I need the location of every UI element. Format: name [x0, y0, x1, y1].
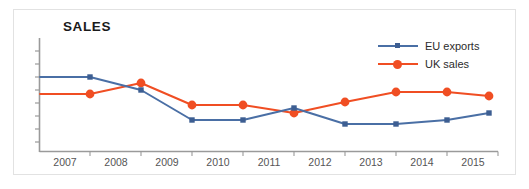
x-tick-label-2007: 2007	[53, 156, 76, 168]
x-tick-label-2010: 2010	[206, 156, 229, 168]
legend-label-eu-exports: EU exports	[425, 40, 479, 52]
series-markers-eu-exports	[87, 74, 491, 126]
legend-label-uk-sales: UK sales	[425, 58, 469, 70]
x-tick-label-2011: 2011	[258, 156, 281, 168]
x-tick-label-2015: 2015	[461, 156, 484, 168]
x-tick-label-2014: 2014	[410, 156, 433, 168]
legend-swatch-uk-sales	[378, 58, 418, 70]
legend-item-eu-exports: EU exports	[378, 39, 479, 53]
x-tick-label-2013: 2013	[359, 156, 382, 168]
legend-swatch-eu-exports	[378, 40, 418, 52]
x-tick-label-2009: 2009	[155, 156, 178, 168]
series-line-uk-sales	[40, 83, 489, 113]
chart-legend: EU exports UK sales	[378, 39, 479, 71]
x-axis-ticks	[90, 152, 498, 157]
series-line-eu-exports	[40, 77, 489, 124]
chart-figure: SALES	[0, 0, 529, 189]
legend-item-uk-sales: UK sales	[378, 57, 479, 71]
x-tick-label-2008: 2008	[104, 156, 127, 168]
x-tick-label-2012: 2012	[308, 156, 331, 168]
